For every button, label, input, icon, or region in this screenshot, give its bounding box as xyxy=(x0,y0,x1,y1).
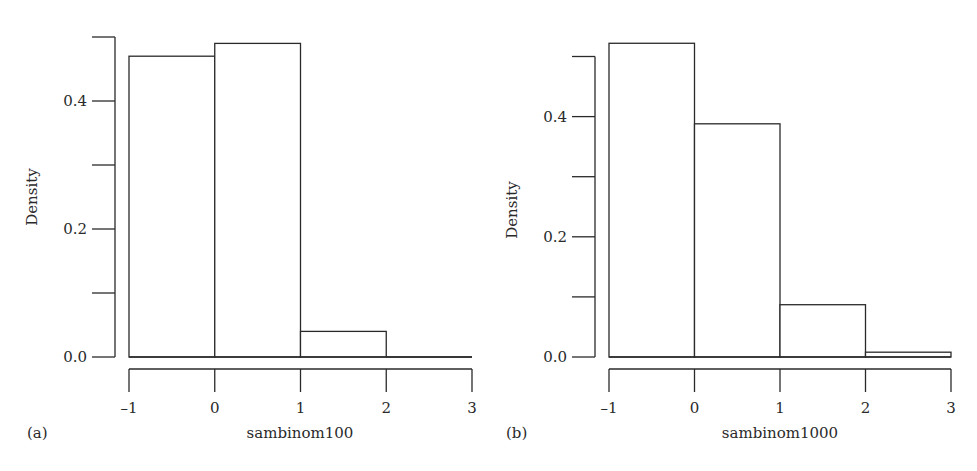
x-tick-label: –1 xyxy=(600,399,617,417)
x-tick-label: 0 xyxy=(210,399,220,417)
x-tick-label: 1 xyxy=(296,399,306,417)
y-axis-title: Density xyxy=(503,181,521,239)
x-axis-title: sambinom100 xyxy=(247,424,354,442)
y-tick-label: 0.0 xyxy=(63,348,87,366)
x-tick-label: –1 xyxy=(120,399,137,417)
histogram-bar xyxy=(609,43,695,357)
y-tick-label: 0.4 xyxy=(543,108,567,126)
x-tick-label: 1 xyxy=(775,399,785,417)
panel-label: (b) xyxy=(506,424,527,442)
histogram-bar xyxy=(129,56,215,357)
panel-label: (a) xyxy=(27,424,48,442)
y-tick-label: 0.0 xyxy=(543,348,567,366)
histogram-bar xyxy=(215,43,301,357)
x-tick-label: 3 xyxy=(467,399,477,417)
x-axis-title: sambinom1000 xyxy=(722,424,838,442)
histogram-panel-b: 0.00.20.4Density–10123sambinom1000(b) xyxy=(503,43,956,442)
x-tick-label: 0 xyxy=(690,399,700,417)
histogram-bar xyxy=(780,305,866,357)
y-tick-label: 0.2 xyxy=(543,228,567,246)
y-axis-title: Density xyxy=(23,168,41,226)
histogram-bar xyxy=(695,124,781,357)
histogram-bar xyxy=(301,331,387,357)
x-tick-label: 3 xyxy=(946,399,956,417)
figure: 0.00.20.4Density–10123sambinom100(a) 0.0… xyxy=(0,0,977,471)
y-tick-label: 0.2 xyxy=(63,220,87,238)
histogram-panel-a: 0.00.20.4Density–10123sambinom100(a) xyxy=(23,37,477,442)
x-tick-label: 2 xyxy=(861,399,871,417)
x-tick-label: 2 xyxy=(381,399,391,417)
y-tick-label: 0.4 xyxy=(63,92,87,110)
histogram-bar xyxy=(866,352,952,357)
